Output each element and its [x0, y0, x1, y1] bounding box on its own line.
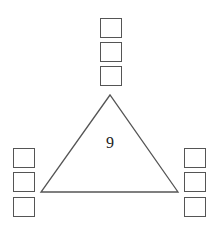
answer-box-left-3[interactable] [13, 197, 35, 217]
answer-box-top-2[interactable] [100, 42, 122, 62]
answer-box-left-1[interactable] [13, 148, 35, 168]
center-number: 9 [102, 134, 118, 152]
answer-box-right-1[interactable] [184, 148, 206, 168]
answer-box-top-3[interactable] [100, 66, 122, 86]
answer-box-top-1[interactable] [100, 18, 122, 38]
answer-box-left-2[interactable] [13, 172, 35, 192]
answer-box-right-2[interactable] [184, 172, 206, 192]
answer-box-right-3[interactable] [184, 197, 206, 217]
